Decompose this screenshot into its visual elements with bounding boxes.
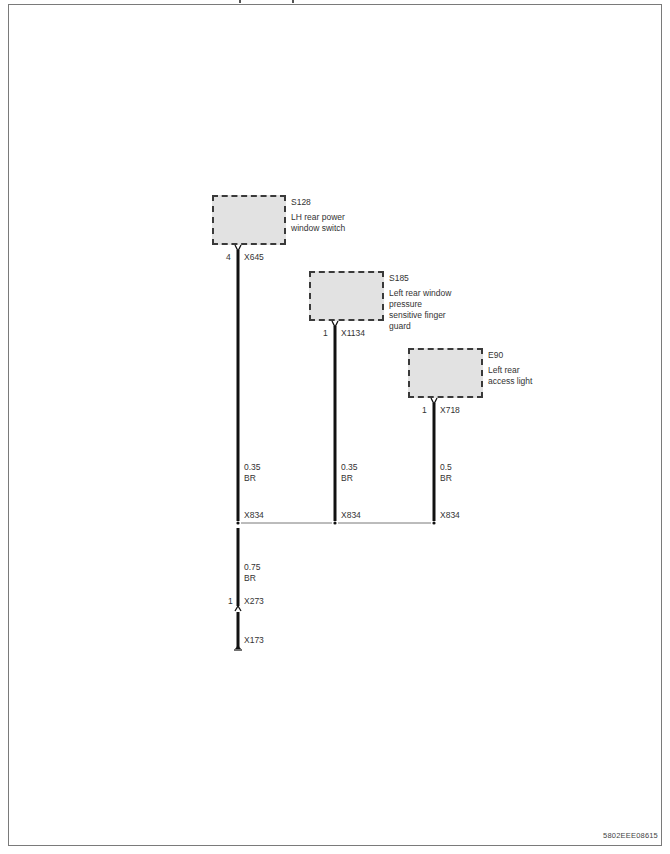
s185-desc: sensitive finger (389, 310, 446, 321)
ground-x173-label: X173 (244, 635, 264, 646)
s128-id: S128 (291, 197, 311, 208)
junction-dot (333, 521, 336, 524)
junction-dot (432, 521, 435, 524)
x273-pin: 1 (228, 596, 233, 607)
s185-id: S185 (389, 273, 409, 284)
s128-desc: LH rear power (291, 212, 345, 223)
connector-x273-label: X273 (244, 596, 264, 607)
s185-desc: pressure (389, 299, 422, 310)
wire-color: BR (244, 473, 256, 484)
wire-size: 0.5 (440, 462, 452, 473)
wire-size: 0.75 (244, 562, 261, 573)
s128-desc: window switch (291, 223, 345, 234)
wire-color: BR (341, 473, 353, 484)
connector-x718-label: X718 (440, 405, 460, 416)
document-id: 5802EEE08615 (603, 831, 658, 840)
junction-x834-label: X834 (341, 510, 361, 521)
wire-color: BR (244, 573, 256, 584)
connector-x1134-label: X1134 (341, 328, 365, 339)
wire-color: BR (440, 473, 452, 484)
e90-desc: Left rear (488, 365, 520, 376)
wire-size: 0.35 (244, 462, 261, 473)
e90-id: E90 (488, 350, 503, 361)
e90-desc: access light (488, 376, 532, 387)
junction-x834-label: X834 (244, 510, 264, 521)
s185-desc: guard (389, 321, 411, 332)
ground-x173-icon (235, 645, 241, 649)
wiring-lines (0, 0, 670, 854)
junction-x834-label: X834 (440, 510, 460, 521)
connector-x645-label: X645 (244, 252, 264, 263)
junction-dot (236, 521, 239, 524)
s185-pin: 1 (323, 328, 328, 339)
connector-x273-icon (235, 606, 241, 611)
e90-pin: 1 (422, 405, 427, 416)
s128-pin: 4 (226, 252, 231, 263)
s185-desc: Left rear window (389, 288, 451, 299)
wire-size: 0.35 (341, 462, 358, 473)
